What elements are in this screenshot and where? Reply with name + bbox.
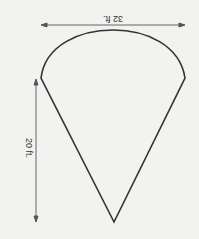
cone-shape xyxy=(41,30,185,222)
height-label: 20 ft. xyxy=(24,138,34,158)
width-label: 32 ft. xyxy=(103,14,123,24)
diagram-canvas: 32 ft. 20 ft. xyxy=(0,0,199,239)
